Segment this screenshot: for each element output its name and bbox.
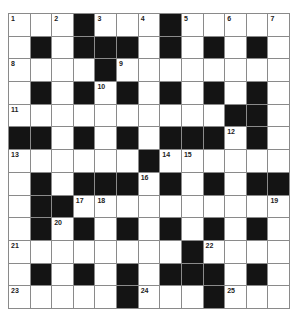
letter-cell[interactable]	[268, 150, 289, 172]
letter-cell[interactable]	[247, 241, 268, 263]
letter-cell[interactable]	[52, 286, 73, 308]
letter-cell[interactable]	[182, 286, 203, 308]
letter-cell[interactable]: 6	[225, 14, 246, 36]
letter-cell[interactable]	[52, 37, 73, 59]
letter-cell[interactable]	[139, 196, 160, 218]
letter-cell[interactable]	[9, 82, 30, 104]
letter-cell[interactable]: 17	[74, 196, 95, 218]
letter-cell[interactable]: 22	[204, 241, 225, 263]
letter-cell[interactable]	[160, 105, 181, 127]
letter-cell[interactable]	[139, 218, 160, 240]
letter-cell[interactable]: 5	[182, 14, 203, 36]
letter-cell[interactable]	[225, 150, 246, 172]
letter-cell[interactable]	[139, 264, 160, 286]
letter-cell[interactable]	[31, 241, 52, 263]
letter-cell[interactable]	[9, 218, 30, 240]
letter-cell[interactable]	[52, 150, 73, 172]
letter-cell[interactable]	[225, 264, 246, 286]
letter-cell[interactable]: 21	[9, 241, 30, 263]
letter-cell[interactable]: 13	[9, 150, 30, 172]
letter-cell[interactable]	[52, 127, 73, 149]
letter-cell[interactable]	[52, 59, 73, 81]
letter-cell[interactable]: 4	[139, 14, 160, 36]
letter-cell[interactable]	[117, 150, 138, 172]
letter-cell[interactable]: 24	[139, 286, 160, 308]
letter-cell[interactable]	[182, 196, 203, 218]
letter-cell[interactable]	[225, 196, 246, 218]
letter-cell[interactable]	[117, 105, 138, 127]
letter-cell[interactable]: 11	[9, 105, 30, 127]
letter-cell[interactable]	[139, 241, 160, 263]
letter-cell[interactable]	[160, 286, 181, 308]
letter-cell[interactable]	[139, 105, 160, 127]
letter-cell[interactable]	[95, 286, 116, 308]
letter-cell[interactable]: 3	[95, 14, 116, 36]
letter-cell[interactable]	[139, 127, 160, 149]
letter-cell[interactable]	[160, 59, 181, 81]
letter-cell[interactable]	[139, 59, 160, 81]
letter-cell[interactable]	[74, 286, 95, 308]
letter-cell[interactable]	[204, 105, 225, 127]
letter-cell[interactable]	[160, 196, 181, 218]
letter-cell[interactable]	[247, 196, 268, 218]
letter-cell[interactable]	[95, 127, 116, 149]
letter-cell[interactable]	[204, 59, 225, 81]
letter-cell[interactable]: 18	[95, 196, 116, 218]
letter-cell[interactable]: 10	[95, 82, 116, 104]
letter-cell[interactable]: 7	[268, 14, 289, 36]
letter-cell[interactable]	[247, 59, 268, 81]
letter-cell[interactable]	[95, 241, 116, 263]
letter-cell[interactable]	[268, 37, 289, 59]
letter-cell[interactable]	[160, 241, 181, 263]
letter-cell[interactable]	[9, 37, 30, 59]
letter-cell[interactable]	[247, 150, 268, 172]
letter-cell[interactable]	[268, 264, 289, 286]
letter-cell[interactable]	[225, 218, 246, 240]
letter-cell[interactable]	[52, 173, 73, 195]
letter-cell[interactable]	[31, 105, 52, 127]
letter-cell[interactable]: 16	[139, 173, 160, 195]
letter-cell[interactable]	[139, 82, 160, 104]
letter-cell[interactable]	[52, 241, 73, 263]
letter-cell[interactable]	[95, 150, 116, 172]
letter-cell[interactable]: 2	[52, 14, 73, 36]
letter-cell[interactable]	[117, 14, 138, 36]
letter-cell[interactable]	[9, 196, 30, 218]
letter-cell[interactable]	[74, 105, 95, 127]
letter-cell[interactable]	[31, 150, 52, 172]
letter-cell[interactable]: 19	[268, 196, 289, 218]
letter-cell[interactable]	[225, 59, 246, 81]
letter-cell[interactable]	[31, 59, 52, 81]
letter-cell[interactable]	[268, 105, 289, 127]
letter-cell[interactable]	[225, 241, 246, 263]
letter-cell[interactable]	[52, 82, 73, 104]
letter-cell[interactable]	[268, 218, 289, 240]
letter-cell[interactable]	[74, 241, 95, 263]
letter-cell[interactable]	[117, 196, 138, 218]
letter-cell[interactable]	[31, 14, 52, 36]
letter-cell[interactable]	[268, 127, 289, 149]
letter-cell[interactable]	[225, 173, 246, 195]
letter-cell[interactable]	[95, 218, 116, 240]
letter-cell[interactable]	[182, 105, 203, 127]
letter-cell[interactable]: 15	[182, 150, 203, 172]
letter-cell[interactable]: 12	[225, 127, 246, 149]
letter-cell[interactable]	[268, 59, 289, 81]
letter-cell[interactable]: 23	[9, 286, 30, 308]
letter-cell[interactable]	[182, 82, 203, 104]
letter-cell[interactable]	[95, 264, 116, 286]
letter-cell[interactable]	[117, 241, 138, 263]
letter-cell[interactable]: 9	[117, 59, 138, 81]
letter-cell[interactable]	[52, 264, 73, 286]
letter-cell[interactable]: 14	[160, 150, 181, 172]
letter-cell[interactable]	[9, 264, 30, 286]
letter-cell[interactable]	[74, 150, 95, 172]
letter-cell[interactable]	[52, 105, 73, 127]
letter-cell[interactable]	[225, 82, 246, 104]
letter-cell[interactable]: 20	[52, 218, 73, 240]
letter-cell[interactable]: 8	[9, 59, 30, 81]
letter-cell[interactable]	[247, 286, 268, 308]
letter-cell[interactable]	[182, 218, 203, 240]
letter-cell[interactable]	[204, 14, 225, 36]
letter-cell[interactable]	[31, 286, 52, 308]
